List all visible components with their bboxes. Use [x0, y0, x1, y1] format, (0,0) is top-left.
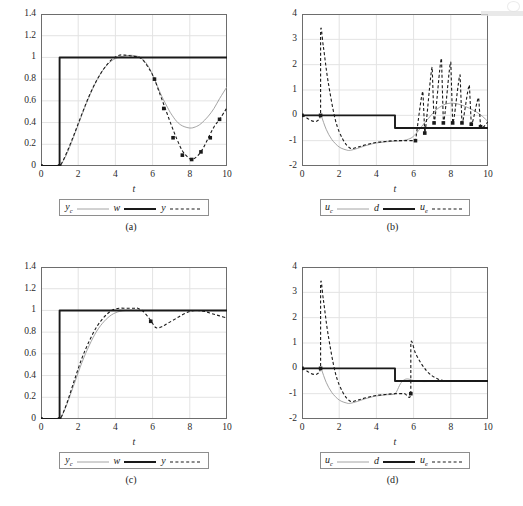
y-tick-label: 1.4: [24, 9, 36, 19]
legend-label: w: [114, 202, 121, 213]
data-marker: [409, 392, 413, 396]
legend-label: d: [374, 202, 379, 213]
legend-line-swatch: [382, 452, 416, 470]
plot-canvas: [302, 267, 488, 419]
x-tick-label: 2: [76, 170, 81, 180]
y-tick-label: 4: [292, 9, 297, 19]
legend: ucdue: [320, 452, 470, 469]
y-tick-label: 1: [292, 85, 297, 95]
legend: ycwy: [59, 452, 209, 469]
series-w: [41, 310, 227, 419]
panel-b: -2-1012340246810tucdue(b): [262, 0, 523, 253]
legend-entry: yc: [63, 452, 111, 470]
x-tick-label: 10: [483, 423, 493, 433]
legend-entry: y: [159, 452, 204, 470]
legend-label: uc: [325, 201, 333, 214]
legend-line-swatch: [169, 452, 203, 470]
series-d: [302, 368, 488, 381]
x-tick-label: 8: [448, 423, 453, 433]
y-tick-label: 0.8: [24, 74, 36, 84]
data-marker: [451, 121, 455, 125]
y-tick-label: 0.6: [24, 96, 36, 106]
legend-line-swatch: [76, 452, 110, 470]
y-tick-label: 0.4: [24, 371, 36, 381]
data-marker: [302, 367, 304, 371]
y-tick-label: 1.2: [24, 31, 36, 41]
legend-label: w: [114, 455, 121, 466]
x-axis-title: t: [394, 183, 397, 194]
legend-entry: w: [112, 452, 160, 470]
x-tick-label: 0: [39, 423, 44, 433]
x-tick-label: 2: [337, 170, 342, 180]
x-tick-label: 8: [187, 423, 192, 433]
x-tick-label: 2: [76, 423, 81, 433]
legend-line-swatch: [123, 199, 157, 217]
y-tick-label: -2: [289, 414, 297, 424]
data-marker: [153, 77, 157, 81]
y-tick-label: 3: [292, 288, 297, 298]
data-marker: [460, 121, 464, 125]
plot-area: 00.20.40.60.811.21.40246810t: [41, 267, 227, 419]
x-axis-title: t: [133, 436, 136, 447]
data-marker: [319, 367, 323, 371]
legend-line-swatch: [169, 199, 203, 217]
legend-label: d: [374, 455, 379, 466]
x-tick-label: 4: [113, 423, 118, 433]
y-tick-label: 0.6: [24, 349, 36, 359]
y-tick-label: 2: [292, 313, 297, 323]
legend-entry: d: [372, 199, 418, 217]
data-marker: [190, 158, 194, 162]
panel-a: 00.20.40.60.811.21.40246810tycwy(a): [0, 0, 262, 253]
y-tick-label: 0: [31, 414, 36, 424]
legend-entry: y: [159, 199, 204, 217]
legend-line-swatch: [382, 199, 416, 217]
scan-artifact-bar: [481, 11, 523, 16]
legend-label: ue: [420, 454, 428, 467]
legend-label: yc: [65, 201, 72, 214]
legend-line-swatch: [123, 452, 157, 470]
panel-c: 00.20.40.60.811.21.40246810tycwy(c): [0, 253, 262, 506]
data-marker: [58, 417, 62, 419]
plot-canvas: [41, 14, 227, 166]
legend-line-swatch: [431, 199, 465, 217]
x-tick-label: 8: [187, 170, 192, 180]
x-tick-label: 4: [113, 170, 118, 180]
plot-area: -2-1012340246810t: [302, 267, 488, 419]
series-d: [302, 115, 488, 128]
y-tick-label: 1.2: [24, 284, 36, 294]
y-tick-label: 3: [292, 35, 297, 45]
data-marker: [319, 114, 323, 118]
x-tick-label: 10: [483, 170, 493, 180]
panel-caption: (a): [0, 221, 262, 232]
y-tick-label: 0: [31, 161, 36, 171]
x-tick-label: 0: [300, 423, 305, 433]
x-tick-label: 6: [411, 423, 416, 433]
y-tick-label: 0.2: [24, 393, 36, 403]
legend-entry: yc: [63, 199, 111, 217]
y-tick-label: 1: [31, 306, 36, 316]
legend-entry: uc: [323, 452, 372, 470]
legend-entry: d: [372, 452, 418, 470]
data-marker: [208, 136, 212, 140]
x-axis-title: t: [133, 183, 136, 194]
legend-entry: uc: [323, 199, 372, 217]
x-tick-label: 6: [150, 170, 155, 180]
data-marker: [423, 131, 427, 135]
y-tick-label: 2: [292, 60, 297, 70]
x-tick-label: 6: [411, 170, 416, 180]
data-marker: [149, 319, 153, 323]
x-tick-label: 10: [222, 170, 232, 180]
y-tick-label: 4: [292, 262, 297, 272]
y-tick-label: 1: [31, 53, 36, 63]
x-axis-title: t: [394, 436, 397, 447]
data-marker: [41, 417, 43, 419]
x-tick-label: 10: [222, 423, 232, 433]
data-marker: [41, 164, 43, 166]
legend-entry: ue: [418, 452, 467, 470]
data-marker: [162, 107, 166, 111]
figure-grid: 00.20.40.60.811.21.40246810tycwy(a) -2-1…: [0, 0, 523, 506]
legend-entry: w: [112, 199, 160, 217]
plot-canvas: [41, 267, 227, 419]
y-tick-label: -2: [289, 161, 297, 171]
data-marker: [442, 121, 446, 125]
